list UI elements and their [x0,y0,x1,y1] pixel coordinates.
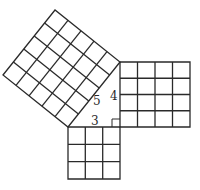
right-angle-marker [112,119,120,127]
label-vertical-leg: 4 [110,89,118,103]
square-side-3 [68,127,120,179]
pythagorean-diagram: 5 4 3 [0,0,200,190]
label-horizontal-leg: 3 [91,114,99,128]
label-hypotenuse: 5 [93,94,101,108]
square-side-4 [120,62,190,127]
square-side-5 [3,10,120,127]
